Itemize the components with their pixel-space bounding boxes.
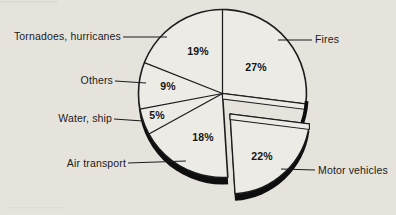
- slice-label-motor-vehicles: Motor vehicles: [318, 164, 388, 176]
- slice-label-fires: Fires: [315, 33, 339, 45]
- slice-value-others: 9%: [160, 80, 176, 92]
- slice-value-tornadoes-hurricanes: 19%: [187, 45, 209, 57]
- scan-artifact-bottom: [6, 207, 64, 208]
- figure-pie-chart: Fires27%Motor vehicles22%Air transport18…: [0, 0, 396, 215]
- slice-value-water-ship: 5%: [149, 109, 165, 121]
- pie-chart-canvas: Fires27%Motor vehicles22%Air transport18…: [0, 0, 396, 215]
- slice-label-tornadoes-hurricanes: Tornadoes, hurricanes: [14, 30, 121, 42]
- slice-label-others: Others: [81, 74, 113, 86]
- slice-value-fires: 27%: [245, 61, 267, 73]
- slice-label-water-ship: Water, ship: [58, 112, 112, 124]
- scan-artifact-top: [0, 1, 58, 3]
- slice-value-motor-vehicles: 22%: [251, 150, 273, 162]
- slice-label-air-transport: Air transport: [67, 157, 126, 169]
- slice-value-air-transport: 18%: [192, 131, 214, 143]
